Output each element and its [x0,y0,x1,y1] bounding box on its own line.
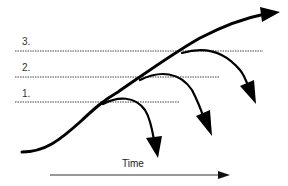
level-2-label: 2. [22,63,30,73]
level-3-label: 3. [22,37,30,47]
branch-2-curve [140,74,203,116]
diagram-svg [0,0,288,186]
main-growth-curve [22,14,265,152]
branch-2-arrowhead-icon [196,110,212,136]
time-axis-label: Time [122,159,144,169]
branch-3-arrowhead-icon [240,80,256,104]
branch-1-curve [103,99,154,140]
time-axis-arrowhead-icon [218,171,230,179]
level-1-label: 1. [22,89,30,99]
main-arrowhead-icon [260,7,280,22]
branch-1-arrowhead-icon [146,136,162,158]
diagram-canvas: 3. 2. 1. Time [0,0,288,186]
branch-3-curve [182,50,248,86]
